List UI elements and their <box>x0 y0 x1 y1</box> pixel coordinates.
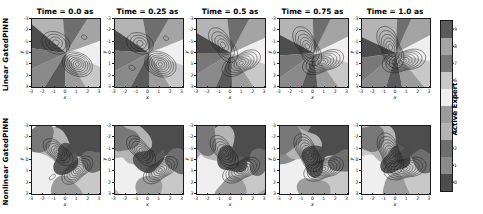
y-tick-mark <box>194 182 196 183</box>
panel-nonlinear-t1: -3-2-10123-3-2-10123xy <box>361 125 429 193</box>
x-tick-label: 1 <box>240 196 243 201</box>
y-tick-label: 3 <box>108 84 111 89</box>
x-tick-label: 2 <box>86 89 89 94</box>
x-axis-label: x <box>31 94 99 100</box>
x-tick-mark <box>301 193 302 195</box>
x-tick-mark <box>125 86 126 88</box>
x-tick-mark <box>279 193 280 195</box>
y-tick-label: -3 <box>189 16 194 21</box>
y-tick-mark <box>277 63 279 64</box>
x-tick-label: -2 <box>370 89 375 94</box>
y-tick-label: -3 <box>189 123 194 128</box>
y-tick-mark <box>29 41 31 42</box>
y-tick-mark <box>112 18 114 19</box>
y-tick-label: 3 <box>356 191 359 196</box>
x-tick-mark <box>54 193 55 195</box>
colorbar-segment <box>441 55 452 72</box>
x-tick-mark <box>159 193 160 195</box>
y-tick-label: -2 <box>106 27 111 32</box>
x-tick-mark <box>395 86 396 88</box>
axes-area <box>114 18 184 88</box>
panel-linear-t0.25: Time = 0.25 as-3-2-10123-3-2-10123xy <box>114 18 182 86</box>
x-tick-label: 0 <box>229 196 232 201</box>
x-tick-label: -3 <box>29 196 34 201</box>
y-tick-label: -3 <box>354 123 359 128</box>
y-tick-mark <box>277 170 279 171</box>
x-tick-label: 2 <box>251 196 254 201</box>
y-tick-mark <box>359 41 361 42</box>
y-tick-mark <box>29 170 31 171</box>
x-tick-mark <box>170 193 171 195</box>
axes-area <box>31 18 101 88</box>
y-tick-mark <box>29 159 31 160</box>
x-tick-mark <box>384 86 385 88</box>
y-tick-label: -1 <box>354 145 359 150</box>
colorbar-tick-label: 9 <box>454 26 457 31</box>
colorbar-label: Active Expert <box>451 83 459 136</box>
x-tick-mark <box>196 193 197 195</box>
x-tick-label: -1 <box>51 89 56 94</box>
y-tick-mark <box>112 159 114 160</box>
y-tick-mark <box>277 18 279 19</box>
x-tick-mark <box>148 193 149 195</box>
y-axis-label: y <box>266 158 272 161</box>
colorbar-tick-label: 7 <box>454 60 457 65</box>
x-tick-label: 2 <box>334 89 337 94</box>
x-tick-label: 2 <box>86 196 89 201</box>
x-tick-label: -3 <box>194 89 199 94</box>
x-tick-label: 3 <box>428 89 431 94</box>
row-label-linear: Linear GatedPINN <box>1 1 10 108</box>
x-tick-label: 2 <box>416 196 419 201</box>
x-tick-label: 2 <box>169 89 172 94</box>
y-tick-label: 3 <box>26 84 29 89</box>
y-tick-label: 0 <box>191 157 194 162</box>
x-tick-label: 3 <box>98 196 101 201</box>
x-tick-label: -1 <box>51 196 56 201</box>
y-tick-label: 3 <box>108 191 111 196</box>
x-tick-label: 1 <box>157 196 160 201</box>
y-tick-label: 0 <box>273 50 276 55</box>
y-tick-label: 1 <box>191 61 194 66</box>
x-tick-label: 1 <box>157 89 160 94</box>
y-tick-label: 3 <box>273 84 276 89</box>
y-tick-mark <box>112 182 114 183</box>
y-axis-label: y <box>348 51 354 54</box>
x-tick-mark <box>182 86 183 88</box>
x-tick-mark <box>324 86 325 88</box>
x-tick-mark <box>196 86 197 88</box>
y-tick-label: 2 <box>108 179 111 184</box>
x-tick-mark <box>347 86 348 88</box>
x-axis-label: x <box>31 201 99 207</box>
y-tick-mark <box>359 63 361 64</box>
y-tick-mark <box>359 75 361 76</box>
x-tick-label: 1 <box>240 89 243 94</box>
y-tick-label: 1 <box>273 168 276 173</box>
x-tick-label: -2 <box>40 89 45 94</box>
x-tick-mark <box>418 86 419 88</box>
x-tick-label: 1 <box>405 196 408 201</box>
x-tick-label: 0 <box>229 89 232 94</box>
x-axis-label: x <box>361 94 429 100</box>
axes-area <box>114 125 184 195</box>
y-tick-mark <box>194 159 196 160</box>
y-tick-mark <box>277 29 279 30</box>
y-tick-label: 3 <box>26 191 29 196</box>
x-tick-label: -1 <box>216 196 221 201</box>
y-tick-mark <box>112 52 114 53</box>
x-tick-label: -2 <box>288 196 293 201</box>
y-tick-label: -2 <box>24 134 29 139</box>
y-tick-mark <box>112 193 114 194</box>
y-tick-label: 1 <box>26 168 29 173</box>
y-tick-mark <box>277 136 279 137</box>
y-tick-mark <box>112 41 114 42</box>
y-tick-mark <box>359 18 361 19</box>
y-tick-label: -3 <box>354 16 359 21</box>
x-tick-label: 0 <box>394 89 397 94</box>
x-tick-label: -3 <box>359 196 364 201</box>
x-axis-label: x <box>114 94 182 100</box>
y-tick-mark <box>112 136 114 137</box>
y-tick-mark <box>277 193 279 194</box>
x-tick-label: -1 <box>134 196 139 201</box>
y-tick-mark <box>194 86 196 87</box>
x-tick-mark <box>335 193 336 195</box>
